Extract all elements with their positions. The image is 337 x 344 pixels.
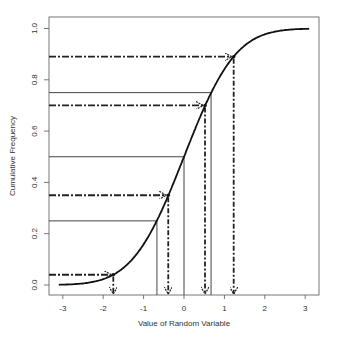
quantile-line: [49, 157, 184, 295]
y-tick-label: 0.2: [30, 228, 39, 240]
x-tick-label: -2: [100, 304, 108, 313]
x-tick-label: -3: [59, 304, 67, 313]
x-tick-label: 0: [182, 304, 187, 313]
cdf-chart: 0.00.20.40.60.81.0 -3-2-10123 Value of R…: [0, 0, 337, 344]
x-tick-label: -1: [140, 304, 148, 313]
x-axis-title: Value of Random Variable: [138, 319, 231, 328]
y-tick-label: 0.4: [30, 176, 39, 188]
quantile-solid-lines: [49, 93, 211, 295]
x-axis: -3-2-10123: [59, 295, 308, 313]
y-tick-label: 1.0: [30, 22, 39, 34]
sample-dashed-arrows: [49, 55, 235, 294]
x-tick-label: 2: [263, 304, 268, 313]
y-tick-label: 0.0: [30, 279, 39, 291]
y-tick-label: 0.8: [30, 74, 39, 86]
y-axis-title: Cumulative Frequency: [8, 116, 17, 196]
y-axis: 0.00.20.40.60.81.0: [30, 22, 49, 290]
x-tick-label: 3: [303, 304, 308, 313]
y-tick-label: 0.6: [30, 125, 39, 137]
x-tick-label: 1: [222, 304, 227, 313]
quantile-line: [49, 93, 211, 295]
